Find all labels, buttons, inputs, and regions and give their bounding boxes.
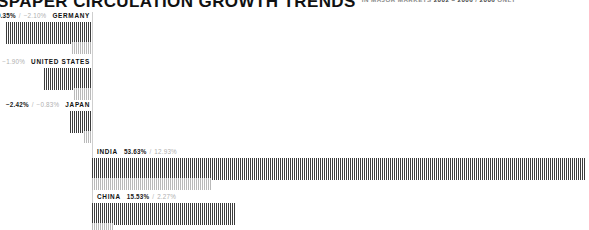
bar-tick <box>62 68 63 90</box>
bar-tick <box>120 158 121 180</box>
bar-tick <box>210 158 211 180</box>
bar-tick <box>222 158 223 180</box>
bar-tick <box>72 22 73 44</box>
value-separator: / <box>149 193 157 200</box>
bar-tick <box>86 22 87 44</box>
bar-tick <box>232 203 233 225</box>
value-year-percent: −1.90% <box>2 58 25 65</box>
bar-tick <box>300 158 301 180</box>
bar-tick <box>560 158 561 180</box>
bar-tick <box>380 158 381 180</box>
bar-tick <box>252 158 253 180</box>
bar-tick <box>112 178 113 190</box>
bar-tick <box>122 203 123 225</box>
bar-tick <box>330 158 331 180</box>
bar-tick <box>70 68 71 90</box>
row-label-india: INDIA53.63% / 12.93% <box>97 147 177 156</box>
bar-tick <box>80 42 81 54</box>
bar-tick <box>208 203 209 225</box>
bar-tick <box>198 158 199 180</box>
bar-tick <box>378 158 379 180</box>
bar-tick <box>372 158 373 180</box>
bar-tick <box>52 22 53 44</box>
bar-tick <box>436 158 437 180</box>
bar-tick <box>94 158 95 180</box>
bar-tick <box>172 178 173 190</box>
bar-tick <box>186 178 187 190</box>
bar-tick <box>194 178 195 190</box>
bar-tick <box>230 158 231 180</box>
bar-tick <box>500 158 501 180</box>
bar-tick <box>30 22 31 44</box>
bar-tick <box>182 158 183 180</box>
bar-tick <box>112 203 113 225</box>
bar-tick <box>280 158 281 180</box>
bar-tick <box>190 203 191 225</box>
bar-tick <box>480 158 481 180</box>
bar-tick <box>22 22 23 44</box>
bar-tick <box>146 158 147 180</box>
bar-tick <box>532 158 533 180</box>
bar-tick <box>148 158 149 180</box>
bar-tick <box>322 158 323 180</box>
bar-tick <box>86 88 87 100</box>
bar-tick <box>366 158 367 180</box>
bar-tick <box>376 158 377 180</box>
bar-tick <box>72 111 73 133</box>
subtitle-single-year: 2006 <box>480 0 496 3</box>
bar-tick <box>572 158 573 180</box>
bar-tick <box>136 203 137 225</box>
bar-tick <box>104 158 105 180</box>
bar-tick <box>130 178 131 190</box>
bar-tick <box>16 22 17 44</box>
bar-tick <box>142 178 143 190</box>
bar-tick <box>530 158 531 180</box>
bar-tick <box>116 203 117 225</box>
bar-tick <box>276 158 277 180</box>
bar-tick <box>48 22 49 44</box>
bar-tick <box>422 158 423 180</box>
bar-tick <box>168 178 169 190</box>
bar-tick <box>326 158 327 180</box>
bar-tick <box>158 178 159 190</box>
bar-tick <box>414 158 415 180</box>
bar-tick <box>406 158 407 180</box>
bar-tick <box>176 158 177 180</box>
bar-tick <box>144 203 145 225</box>
bar-tick <box>166 203 167 225</box>
bar-tick <box>474 158 475 180</box>
bar-tick <box>204 158 205 180</box>
bar-tick <box>430 158 431 180</box>
bar-tick <box>84 22 85 44</box>
bar-tick <box>284 158 285 180</box>
bar-tick <box>116 158 117 180</box>
bars-year-india <box>92 178 212 190</box>
bar-tick <box>88 22 89 44</box>
bar-tick <box>152 158 153 180</box>
bar-tick <box>102 223 103 230</box>
bar-tick <box>122 158 123 180</box>
value-range-percent: −2.42% <box>6 101 29 108</box>
bar-tick <box>558 158 559 180</box>
bar-tick <box>562 158 563 180</box>
bar-tick <box>174 158 175 180</box>
bar-tick <box>412 158 413 180</box>
bar-tick <box>224 158 225 180</box>
bar-tick <box>156 178 157 190</box>
bar-tick <box>78 68 79 90</box>
bar-tick <box>152 203 153 225</box>
bar-tick <box>510 158 511 180</box>
bar-tick <box>212 158 213 180</box>
bar-tick <box>24 22 25 44</box>
bar-tick <box>120 203 121 225</box>
country-name: UNITED STATES <box>31 58 90 65</box>
bar-tick <box>490 158 491 180</box>
bar-tick <box>296 158 297 180</box>
bar-tick <box>82 111 83 133</box>
bar-tick <box>76 68 77 90</box>
bar-tick <box>516 158 517 180</box>
bar-tick <box>104 178 105 190</box>
bar-tick <box>344 158 345 180</box>
bar-tick <box>184 178 185 190</box>
bar-tick <box>44 68 45 90</box>
